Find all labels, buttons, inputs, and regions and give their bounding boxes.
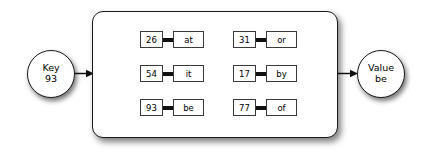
link-connector-icon xyxy=(256,106,266,110)
entry-value: at xyxy=(173,31,204,48)
link-connector-icon xyxy=(256,38,266,42)
hash-table-diagram: Key 93 26 at 54 it 93 be 31 or 17 by 77 … xyxy=(0,0,428,152)
entry-key: 31 xyxy=(233,31,256,48)
entry-key: 77 xyxy=(233,99,256,116)
link-connector-icon xyxy=(163,72,173,76)
entry-key: 93 xyxy=(140,99,163,116)
hash-table-container xyxy=(92,11,338,138)
entry-key: 54 xyxy=(140,65,163,82)
link-connector-icon xyxy=(163,38,173,42)
table-row: 93 be xyxy=(140,99,204,116)
entry-value: of xyxy=(266,99,297,116)
entry-key: 26 xyxy=(140,31,163,48)
entry-value: it xyxy=(173,65,204,82)
entry-key: 17 xyxy=(233,65,256,82)
arrow-right-icon-out xyxy=(338,69,359,78)
value-node: Value be xyxy=(357,50,405,98)
entry-value: be xyxy=(173,99,204,116)
link-connector-icon xyxy=(256,72,266,76)
entry-value: by xyxy=(266,65,297,82)
table-row: 26 at xyxy=(140,31,204,48)
table-row: 54 it xyxy=(140,65,204,82)
table-row: 31 or xyxy=(233,31,297,48)
key-node: Key 93 xyxy=(27,50,75,98)
table-row: 17 by xyxy=(233,65,297,82)
table-row: 77 of xyxy=(233,99,297,116)
link-connector-icon xyxy=(163,106,173,110)
key-node-value: 93 xyxy=(45,74,57,85)
entry-value: or xyxy=(266,31,297,48)
value-node-value: be xyxy=(375,74,387,85)
